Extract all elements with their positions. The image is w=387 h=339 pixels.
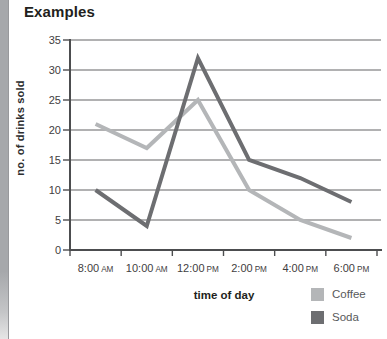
legend-label-soda: Soda <box>332 311 359 323</box>
y-axis-title: no. of drinks sold <box>14 80 26 175</box>
soda-swatch-icon <box>311 311 324 324</box>
y-tick-label-20: 20 <box>49 124 61 136</box>
y-tick-label-15: 15 <box>49 154 61 166</box>
page: Examples 051015202530358:00AM10:00AM12:0… <box>0 0 387 339</box>
y-tick-label-0: 0 <box>55 244 61 256</box>
x-tick-label-1: 10:00AM <box>126 262 168 274</box>
x-tick-label-0: 8:00AM <box>78 262 114 274</box>
legend: Coffee Soda <box>311 287 366 324</box>
y-tick-label-25: 25 <box>49 94 61 106</box>
x-tick-label-2: 12:00PM <box>177 262 219 274</box>
legend-item-coffee: Coffee <box>311 287 366 301</box>
y-tick-label-35: 35 <box>49 34 61 46</box>
y-tick-label-30: 30 <box>49 64 61 76</box>
x-tick-label-3: 2:00PM <box>231 262 267 274</box>
x-axis-title: time of day <box>194 289 255 301</box>
legend-item-soda: Soda <box>311 310 366 324</box>
x-tick-label-4: 4:00PM <box>282 262 318 274</box>
coffee-swatch-icon <box>311 288 324 301</box>
x-tick-label-5: 6:00PM <box>334 262 370 274</box>
y-tick-label-10: 10 <box>49 184 61 196</box>
legend-label-coffee: Coffee <box>332 288 366 300</box>
y-tick-label-5: 5 <box>55 214 61 226</box>
